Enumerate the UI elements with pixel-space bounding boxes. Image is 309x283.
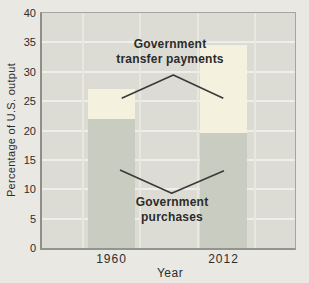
annotation-purchases: Government purchases: [136, 195, 209, 225]
annotation-purchases-line2: purchases: [136, 210, 209, 225]
y-tick-label-0: 0: [0, 241, 36, 255]
h-gridline-10: [42, 188, 295, 190]
h-gridline-20: [42, 130, 295, 132]
annotation-transfer-line2: transfer payments: [116, 52, 223, 67]
y-tick-label-25: 25: [0, 94, 36, 108]
x-tick-label-2012: 2012: [208, 252, 239, 266]
bar-segment-2012-government-purchases: [200, 133, 247, 248]
bar-segment-1960-government-transfer-payments: [88, 89, 135, 118]
v-gridline-0: [82, 13, 84, 248]
y-tick-label-30: 30: [0, 65, 36, 79]
y-tick-label-10: 10: [0, 182, 36, 196]
y-tick-label-35: 35: [0, 35, 36, 49]
annotation-purchases-line1: Government: [136, 195, 209, 210]
annotation-transfer-line1: Government: [116, 37, 223, 52]
x-axis-title: Year: [157, 266, 183, 280]
y-tick-label-5: 5: [0, 212, 36, 226]
y-tick-label-20: 20: [0, 124, 36, 138]
h-gridline-15: [42, 159, 295, 161]
h-gridline-25: [42, 100, 295, 102]
y-tick-label-15: 15: [0, 153, 36, 167]
h-gridline-30: [42, 71, 295, 73]
x-tick-label-1960: 1960: [96, 252, 127, 266]
chart-figure: Percentage of U.S. output Government tra…: [0, 0, 309, 283]
annotation-transfer-payments: Government transfer payments: [116, 37, 223, 67]
bar-segment-1960-government-purchases: [88, 119, 135, 248]
y-tick-label-40: 40: [0, 6, 36, 20]
v-gridline-3: [254, 13, 256, 248]
